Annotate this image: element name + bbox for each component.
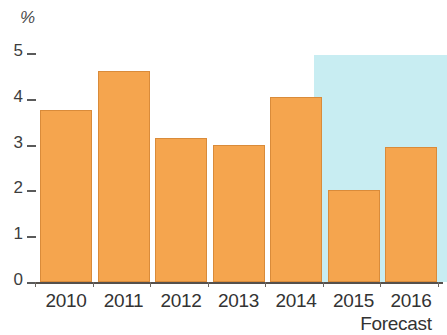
bar-2010 — [40, 110, 92, 282]
y-axis-tick-mark — [27, 99, 36, 101]
bar-2011 — [98, 71, 150, 282]
y-axis-tick: 4 — [0, 99, 40, 100]
bar-2014 — [270, 97, 322, 282]
x-axis-tick-mark — [265, 282, 266, 287]
y-axis-tick-mark — [27, 236, 36, 238]
bar-2013 — [213, 145, 265, 282]
y-axis-tick: 5 — [0, 53, 40, 54]
bar-2016 — [385, 147, 437, 282]
x-axis-label-2012: 2012 — [151, 290, 211, 312]
x-axis-tick-mark — [380, 282, 381, 287]
y-axis-tick: 1 — [0, 236, 40, 237]
x-axis-tick-mark — [438, 282, 439, 287]
y-axis-tick: 2 — [0, 190, 40, 191]
y-axis-tick-mark — [27, 145, 36, 147]
x-axis-label-2016: 2016 — [381, 290, 441, 312]
y-axis-tick-label: 2 — [14, 179, 23, 196]
y-axis-tick-label: 3 — [14, 134, 23, 151]
x-axis-tick-mark — [150, 282, 151, 287]
x-axis-label-2011: 2011 — [94, 290, 154, 312]
y-axis-tick-label: 0 — [14, 271, 23, 288]
bar-2012 — [155, 138, 207, 282]
y-axis-tick-label: 4 — [14, 88, 23, 105]
x-axis-tick-mark — [93, 282, 94, 287]
y-axis-tick-mark — [27, 53, 36, 55]
x-axis-tick-mark — [323, 282, 324, 287]
x-axis-label-2015: 2015 — [324, 290, 384, 312]
y-axis-tick: 3 — [0, 145, 40, 146]
x-axis-label-2014: 2014 — [266, 290, 326, 312]
bar-2015 — [328, 190, 380, 282]
x-axis-tick-mark — [35, 282, 36, 287]
y-axis-tick-label: 1 — [14, 225, 23, 242]
x-axis-tick-mark — [208, 282, 209, 287]
x-axis-label-2010: 2010 — [36, 290, 96, 312]
y-axis-tick-label: 5 — [14, 42, 23, 59]
forecast-annotation: Forecast — [351, 313, 441, 334]
y-axis-unit-label: % — [20, 8, 35, 28]
x-axis-line — [36, 282, 443, 284]
y-axis-tick: 0 — [0, 282, 40, 283]
x-axis-label-2013: 2013 — [209, 290, 269, 312]
y-axis-tick-mark — [27, 190, 36, 192]
